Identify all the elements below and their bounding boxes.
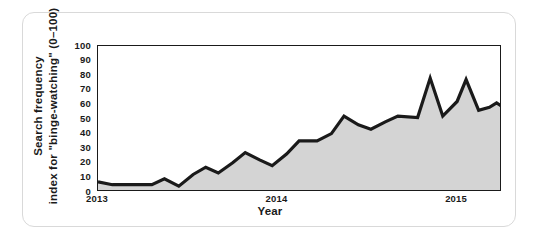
y-tick-label: 50 xyxy=(65,113,91,124)
y-tick-label: 100 xyxy=(65,40,91,51)
binge-watching-search-trend-chart: Search frequency index for "binge-watchi… xyxy=(23,13,517,228)
y-tick-label: 40 xyxy=(65,127,91,138)
y-tick-label: 30 xyxy=(65,142,91,153)
y-tick-label: 70 xyxy=(65,83,91,94)
x-axis-title: Year xyxy=(23,205,517,217)
x-tick-label: 2014 xyxy=(257,193,297,204)
y-axis-title-line-2: index for "binge-watching" (0–100) xyxy=(46,8,61,205)
y-tick-label: 20 xyxy=(65,156,91,167)
y-tick-label: 60 xyxy=(65,98,91,109)
y-axis-title-line-1: Search frequency xyxy=(31,56,46,156)
series-area-fill xyxy=(98,46,501,191)
y-tick-label: 80 xyxy=(65,69,91,80)
x-tick-label: 2013 xyxy=(77,193,117,204)
chart-card: Search frequency index for "binge-watchi… xyxy=(22,12,516,227)
x-tick-label: 2015 xyxy=(436,193,476,204)
y-axis-title: Search frequency index for "binge-watchi… xyxy=(31,21,61,191)
area-series-svg xyxy=(98,46,501,191)
y-tick-label: 90 xyxy=(65,54,91,65)
y-tick-label: 10 xyxy=(65,171,91,182)
plot-area xyxy=(97,45,501,191)
